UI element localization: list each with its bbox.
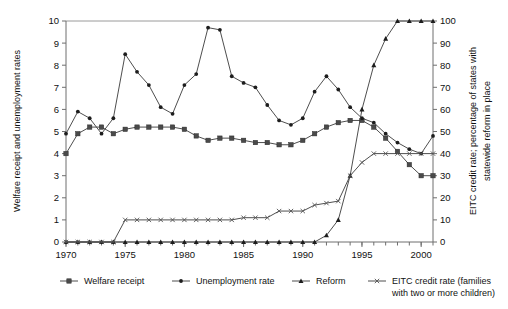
x-tick-label: 2000 (411, 249, 432, 260)
y2-axis-title-line2: statewide reform in place (482, 81, 492, 181)
left-tick-label: 5 (54, 126, 59, 137)
x-tick-label: 1975 (115, 249, 136, 260)
right-tick-label: 70 (440, 82, 451, 93)
right-tick-label: 40 (440, 148, 451, 159)
right-tick-label: 0 (440, 236, 445, 247)
left-tick-label: 1 (54, 214, 59, 225)
right-tick-label: 50 (440, 126, 451, 137)
right-tick-label: 20 (440, 192, 451, 203)
right-tick-label: 80 (440, 60, 451, 71)
left-tick-label: 4 (54, 148, 59, 159)
left-tick-label: 6 (54, 104, 59, 115)
x-tick-label: 1970 (55, 249, 76, 260)
right-tick-label: 100 (440, 15, 456, 26)
left-tick-label: 9 (54, 38, 59, 49)
left-tick-label: 3 (54, 170, 59, 181)
x-tick-label: 1985 (233, 249, 254, 260)
right-tick-label: 60 (440, 104, 451, 115)
x-tick-label: 1990 (292, 249, 313, 260)
legend-label: Welfare receipt (84, 276, 145, 286)
right-tick-label: 10 (440, 214, 451, 225)
chart-figure: 012345678910 0102030405060708090100 1970… (0, 0, 508, 309)
right-tick-label: 90 (440, 38, 451, 49)
y-axis-title: Welfare receipt and unemployment rates (12, 50, 22, 212)
x-tick-label: 1995 (351, 249, 372, 260)
left-tick-label: 7 (54, 82, 59, 93)
y2-axis-title-line1: EITC credit rate; percentage of states w… (468, 47, 478, 215)
left-tick-label: 2 (54, 192, 59, 203)
left-tick-label: 10 (48, 15, 59, 26)
legend-label-line2: with two or more children) (391, 288, 495, 298)
legend-label: Reform (316, 276, 346, 286)
legend-label: EITC credit rate (families (392, 276, 492, 286)
left-tick-label: 0 (54, 236, 59, 247)
left-tick-label: 8 (54, 60, 59, 71)
legend-label: Unemployment rate (196, 276, 275, 286)
right-tick-label: 30 (440, 170, 451, 181)
x-tick-label: 1980 (174, 249, 195, 260)
